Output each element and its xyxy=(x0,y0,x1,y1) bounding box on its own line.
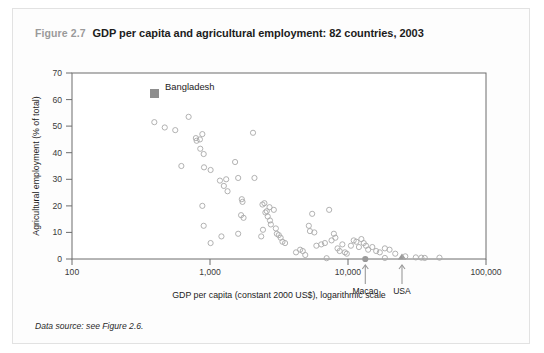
x-axis: 100 1,000 10,000 100,000 xyxy=(65,259,502,277)
y-tick-label-70: 70 xyxy=(52,68,62,78)
x-tick-label-10000: 10,000 xyxy=(335,267,362,277)
y-tick-label-30: 30 xyxy=(52,174,62,184)
bangladesh-marker xyxy=(150,89,159,98)
y-tick-label-0: 0 xyxy=(57,254,62,264)
scatter-chart-svg: 70 60 50 40 30 20 10 0 Agricultural empl… xyxy=(13,9,531,345)
y-tick-label-20: 20 xyxy=(52,201,62,211)
legend-label-bangladesh: Bangladesh xyxy=(165,81,215,92)
figure-container: Figure 2.7GDP per capita and agricultura… xyxy=(12,8,530,344)
x-tick-label-100: 100 xyxy=(65,267,80,277)
y-axis: 70 60 50 40 30 20 10 0 xyxy=(52,68,72,264)
y-tick-label-40: 40 xyxy=(52,148,62,158)
annotation-label-macao: Macao xyxy=(352,286,378,296)
y-tick-label-10: 10 xyxy=(52,227,62,237)
y-tick-label-60: 60 xyxy=(52,95,62,105)
plot-frame xyxy=(72,73,486,259)
annotation-label-usa: USA xyxy=(393,286,411,296)
y-axis-title: Agricultural employment (% of total) xyxy=(31,96,41,235)
figure-source: Data source: see Figure 2.6. xyxy=(35,321,143,331)
chart-plot-area: 70 60 50 40 30 20 10 0 Agricultural empl… xyxy=(13,9,531,345)
x-tick-label-100000: 100,000 xyxy=(470,267,501,277)
annotation-usa: USA xyxy=(393,254,411,297)
x-tick-label-1000: 1,000 xyxy=(199,267,221,277)
y-tick-label-50: 50 xyxy=(52,121,62,131)
macao-marker xyxy=(362,256,368,262)
